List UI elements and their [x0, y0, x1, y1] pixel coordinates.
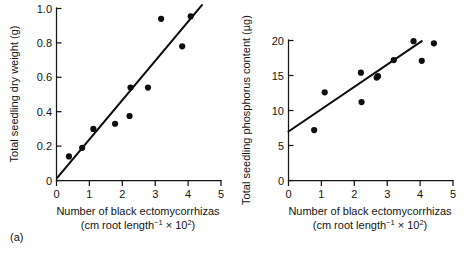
data-point [311, 127, 317, 133]
data-points-b [311, 38, 437, 133]
panel-b: 0 5 10 15 20 0 1 2 3 4 [232, 0, 464, 256]
x-tick-label: 0 [53, 188, 59, 200]
x-tick-labels-a: 0 1 2 3 4 5 [53, 188, 224, 200]
panel-a-caption: (a) [10, 231, 23, 243]
x-tick-label: 5 [218, 188, 224, 200]
figure-container: 0 0.2 0.4 0.6 0.8 1.0 0 1 2 3 [0, 0, 464, 256]
x-tick-label: 4 [185, 188, 191, 200]
x-tick-labels-b: 0 1 2 3 4 5 [285, 188, 456, 200]
y-tick-label: 20 [272, 35, 284, 47]
y-axis-title-a: Total seedling dry weight (g) [8, 26, 20, 163]
data-point [127, 85, 133, 91]
x-tick-label: 2 [119, 188, 125, 200]
y-tick-label: 0.6 [37, 71, 52, 83]
x-tick-label: 4 [417, 188, 423, 200]
x-axis-subtitle-b: (cm root length−1 × 102) [313, 218, 428, 232]
data-points-a [66, 13, 194, 159]
y-tick-label: 0 [46, 175, 52, 187]
panel-a: 0 0.2 0.4 0.6 0.8 1.0 0 1 2 3 [0, 0, 232, 256]
x-tick-label: 3 [152, 188, 158, 200]
x-axis-title-a: Number of black ectomycorrhizas [56, 205, 220, 217]
y-tick-label: 10 [272, 105, 284, 117]
x-tick-label: 1 [318, 188, 324, 200]
y-tick-labels-a: 0 0.2 0.4 0.6 0.8 1.0 [37, 3, 52, 187]
y-tick-label: 5 [278, 140, 284, 152]
x-tick-label: 2 [351, 188, 357, 200]
x-tick-label: 1 [86, 188, 92, 200]
y-tick-label: 15 [272, 70, 284, 82]
data-point [126, 113, 132, 119]
x-tick-label: 0 [285, 188, 291, 200]
data-point [79, 145, 85, 151]
y-tick-label: 0 [278, 175, 284, 187]
scatter-plot-b: 0 5 10 15 20 0 1 2 3 4 [232, 0, 464, 256]
data-point [358, 99, 364, 105]
y-ticks-a [57, 9, 62, 181]
data-point [90, 126, 96, 132]
y-tick-labels-b: 0 5 10 15 20 [272, 35, 284, 187]
x-tick-label: 5 [450, 188, 456, 200]
data-point [375, 73, 381, 79]
y-tick-label: 0.2 [37, 140, 52, 152]
x-ticks-a [57, 181, 222, 187]
data-point [410, 38, 416, 44]
data-point [179, 43, 185, 49]
y-tick-label: 1.0 [37, 3, 52, 15]
x-ticks-b [289, 181, 454, 187]
data-point [112, 121, 118, 127]
data-point [358, 70, 364, 76]
y-tick-label: 0.8 [37, 37, 52, 49]
regression-line-b [289, 41, 422, 131]
data-point [431, 40, 437, 46]
y-tick-label: 0.4 [37, 106, 52, 118]
data-point [419, 58, 425, 64]
y-axis-title-b: Total seedling phosphorus content (µg) [240, 15, 252, 205]
x-axis-subtitle-a: (cm root length−1 × 102) [81, 218, 196, 232]
x-tick-label: 3 [384, 188, 390, 200]
data-point [391, 57, 397, 63]
y-ticks-b [289, 41, 294, 181]
data-point [158, 16, 164, 22]
scatter-plot-a: 0 0.2 0.4 0.6 0.8 1.0 0 1 2 3 [0, 0, 232, 256]
x-axis-title-b: Number of black ectomycorrhizas [288, 205, 452, 217]
data-point [66, 153, 72, 159]
regression-line-a [57, 5, 202, 178]
data-point [188, 13, 194, 19]
data-point [322, 89, 328, 95]
data-point [145, 85, 151, 91]
